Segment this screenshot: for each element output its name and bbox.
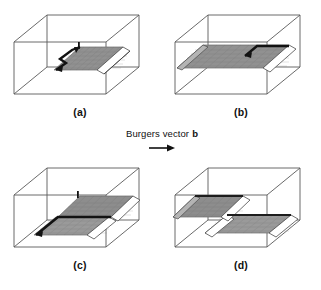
box-edge-br-b	[267, 67, 300, 94]
panel-b: (b)	[161, 2, 321, 134]
panel-b-label: (b)	[161, 106, 321, 118]
panel-d-diagram	[161, 155, 321, 259]
box-edge-tl-a	[14, 15, 47, 42]
box-edge-bl-d	[175, 220, 208, 247]
dislocation-tick-c	[77, 191, 79, 198]
box-edge-tl-b	[175, 15, 208, 42]
box-edge-tr-b	[267, 15, 300, 42]
dislocation-figure: (a)	[0, 0, 321, 290]
box-edge-bl-a	[14, 67, 47, 94]
panel-d: (d)	[161, 155, 321, 287]
panel-a: (a)	[0, 2, 160, 134]
panel-a-label: (a)	[0, 106, 160, 118]
burgers-vector-arrow-wrap	[88, 141, 236, 155]
box-edge-br-a	[106, 67, 139, 94]
burgers-vector-symbol: b	[189, 128, 198, 139]
burgers-vector-caption: Burgers vectorb	[88, 128, 236, 139]
burgers-vector-text: Burgers vector	[126, 128, 189, 139]
burgers-vector-annotation: Burgers vectorb	[88, 128, 236, 155]
box-edge-tl-c	[14, 168, 47, 195]
burgers-vector-arrow-icon	[145, 142, 179, 154]
box-edge-tr-d	[267, 168, 300, 195]
box-edge-tr-c	[106, 168, 139, 195]
dislocation-tick-a	[78, 42, 80, 49]
panel-a-diagram	[0, 2, 160, 106]
box-edge-tl-d	[175, 168, 208, 195]
panel-d-label: (d)	[161, 259, 321, 271]
panel-b-diagram	[161, 2, 321, 106]
panel-c: (c)	[0, 155, 160, 287]
box-edge-bl-b	[175, 67, 208, 94]
box-edge-tr-a	[106, 15, 139, 42]
panel-c-diagram	[0, 155, 160, 259]
panel-c-label: (c)	[0, 259, 160, 271]
